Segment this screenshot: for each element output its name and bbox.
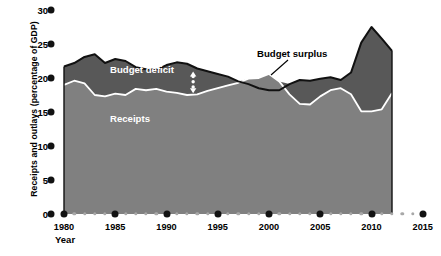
x-axis-dot-1992	[185, 212, 188, 215]
x-axis-dot-1998	[247, 212, 250, 215]
x-axis-dot-2002	[288, 212, 291, 215]
x-axis-dot-2011	[380, 212, 383, 215]
x-axis-dot-2009	[360, 212, 363, 215]
budget-deficit-label: Budget deficit	[110, 64, 174, 75]
x-axis-dot-2013	[401, 212, 404, 215]
x-axis-dot-1997	[237, 212, 240, 215]
x-tick-label-2000: 2000	[259, 222, 279, 232]
x-axis-dot-2006	[329, 212, 332, 215]
x-axis-dot-2012	[390, 212, 393, 215]
x-axis-dot-2007	[339, 212, 342, 215]
x-axis-dot-1984	[103, 212, 106, 215]
x-axis-dot-1985	[112, 211, 119, 218]
x-axis-dot-2015	[419, 211, 426, 218]
x-axis-dot-2001	[278, 212, 281, 215]
x-tick-label-1985: 1985	[105, 222, 125, 232]
x-axis-dot-1980	[61, 211, 68, 218]
x-axis-dot-2003	[298, 212, 301, 215]
x-axis-dot-1989	[155, 212, 158, 215]
x-axis-dot-1995	[214, 211, 221, 218]
x-axis-dot-1991	[175, 212, 178, 215]
x-tick-label-2005: 2005	[310, 222, 330, 232]
x-axis-dot-2004	[308, 212, 311, 215]
x-axis-dot-1990	[163, 211, 170, 218]
x-axis-dot-1993	[196, 212, 199, 215]
x-axis-dot-1983	[93, 212, 96, 215]
x-axis-dot-1982	[83, 212, 86, 215]
outlays-label: Outlays	[113, 36, 148, 47]
x-axis-title: Year	[55, 234, 75, 245]
x-tick-label-2015: 2015	[413, 222, 433, 232]
x-axis-dot-2008	[349, 212, 352, 215]
x-axis-dot-1999	[257, 212, 260, 215]
x-tick-label-2010: 2010	[361, 222, 381, 232]
x-axis-dot-1987	[134, 212, 137, 215]
x-axis-dot-1981	[73, 212, 76, 215]
x-tick-label-1995: 1995	[208, 222, 228, 232]
budget-surplus-label: Budget surplus	[257, 48, 327, 59]
x-axis-dot-2005	[317, 211, 324, 218]
x-axis-dot-2010	[368, 211, 375, 218]
receipts-label: Receipts	[110, 113, 150, 124]
x-axis-dot-1994	[206, 212, 209, 215]
x-axis-dot-2000	[266, 211, 273, 218]
x-axis-dot-1988	[144, 212, 147, 215]
x-axis: 19801985199019952000200520102015	[0, 0, 441, 256]
x-tick-label-1980: 1980	[54, 222, 74, 232]
budget-receipts-outlays-chart: Receipts and outlays (percentage of GDP)…	[0, 0, 441, 256]
x-axis-dot-1996	[226, 212, 229, 215]
x-axis-dot-2014	[411, 212, 414, 215]
x-tick-label-1990: 1990	[156, 222, 176, 232]
x-axis-dot-1986	[124, 212, 127, 215]
